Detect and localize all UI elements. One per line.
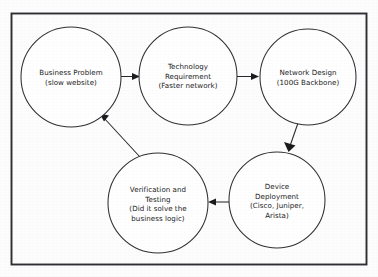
node-label-technology-requirement-line-3: (Faster network) [159,81,218,90]
node-label-device-deployment-line-2: Deployment [255,192,299,201]
node-label-technology-requirement-line-2: Requirement [165,72,211,81]
node-label-device-deployment-line-3: (Cisco, Juniper, [250,201,304,210]
node-label-network-design-line-1: Network Design [279,68,336,77]
edge-problem-to-requirement [121,73,140,80]
edge-requirement-to-design [237,73,259,80]
node-label-device-deployment-line-1: Device [265,182,290,191]
node-label-technology-requirement-line-1: Technology [167,62,208,71]
node-label-verification-testing-line-2: Testing [144,195,170,204]
edge-deployment-to-verification [208,199,229,206]
node-network-design[interactable]: Network Design (100G Backbone) [260,29,356,125]
node-label-network-design-line-2: (100G Backbone) [277,78,340,87]
node-label-device-deployment-line-4: Arista) [265,211,289,220]
node-label-business-problem-line-2: (slow website) [45,78,97,87]
node-verification-testing[interactable]: Verification and Testing (Did it solve t… [108,153,208,253]
node-technology-requirement[interactable]: Technology Requirement (Faster network) [139,27,237,125]
edge-design-to-deployment [284,123,298,152]
node-label-verification-testing-line-3: (Did it solve the [129,204,186,213]
node-device-deployment[interactable]: Device Deployment (Cisco, Juniper, Arist… [229,152,325,248]
node-label-verification-testing-line-1: Verification and [130,185,186,194]
node-business-problem[interactable]: Business Problem (slow website) [21,27,121,127]
node-label-verification-testing-line-4: business logic) [131,214,185,223]
node-label-business-problem-line-1: Business Problem [39,68,102,77]
diagram-canvas: Business Problem (slow website) Technolo… [0,0,378,277]
diagram-svg: Business Problem (slow website) Technolo… [0,0,378,277]
edge-verification-to-problem [100,114,141,158]
